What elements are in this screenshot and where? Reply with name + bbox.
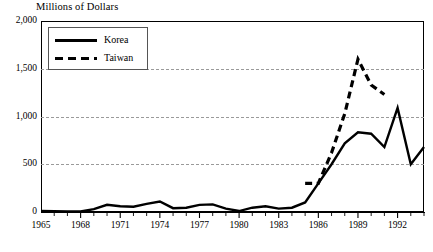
chart-legend: Korea Taiwan [48,27,148,70]
x-axis-line [41,212,425,213]
x-tick-label-1992: 1992 [388,220,407,230]
legend-entry-taiwan: Taiwan [55,51,133,65]
x-tick-label-1968: 1968 [71,220,90,230]
y-tick-label-500: 500 [0,159,37,169]
x-tick-label-1983: 1983 [269,220,288,230]
x-tick-label-1971: 1971 [111,220,130,230]
chart-container: Millions of Dollars 05001,0001,5002,000 … [0,0,433,252]
x-tick-label-1980: 1980 [230,220,249,230]
legend-label-taiwan: Taiwan [104,53,133,63]
y-tick-label-1500: 1,500 [0,64,37,74]
legend-swatch-korea-icon [55,39,97,42]
x-tick-label-1989: 1989 [348,220,367,230]
y-tick-label-1000: 1,000 [0,112,37,122]
x-tick-label-1977: 1977 [190,220,209,230]
legend-label-korea: Korea [104,35,128,45]
y-tick-label-2000: 2,000 [0,16,37,26]
gridline-500 [41,164,424,165]
y-tick-label-0: 0 [0,207,37,217]
legend-entry-korea: Korea [55,33,128,47]
x-tick-label-1986: 1986 [309,220,328,230]
chart-title: Millions of Dollars [36,1,118,12]
legend-swatch-taiwan-icon [55,57,97,60]
x-tick-label-1974: 1974 [150,220,169,230]
x-tick-label-1965: 1965 [32,220,51,230]
gridline-1000 [41,117,424,118]
